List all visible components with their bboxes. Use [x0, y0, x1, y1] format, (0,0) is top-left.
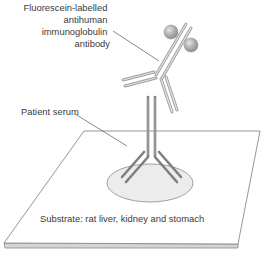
secondary-antibody-label-line-4: antibody — [75, 38, 111, 49]
patient-serum-label: Patient serum — [21, 106, 79, 117]
secondary-antibody-label: Fluorescein-labelled antihuman immunoglo… — [23, 2, 110, 49]
substrate-label: Substrate: rat liver, kidney and stomach — [40, 213, 204, 224]
fluorescein-sphere-2 — [184, 38, 198, 52]
immunofluorescence-diagram: Fluorescein-labelled antihuman immunoglo… — [0, 0, 273, 265]
secondary-antibody-label-line-2: antihuman — [64, 14, 108, 25]
secondary-antibody-label-line-1: Fluorescein-labelled — [23, 2, 107, 13]
serum-spot — [107, 164, 193, 202]
secondary-antibody-label-line-3: immunoglobulin — [42, 26, 108, 37]
secondary-antibody — [123, 24, 191, 112]
secondary-antibody-fill — [123, 24, 191, 112]
secondary-antibody-leader — [113, 31, 159, 61]
fluorescein-sphere-1 — [164, 25, 178, 39]
